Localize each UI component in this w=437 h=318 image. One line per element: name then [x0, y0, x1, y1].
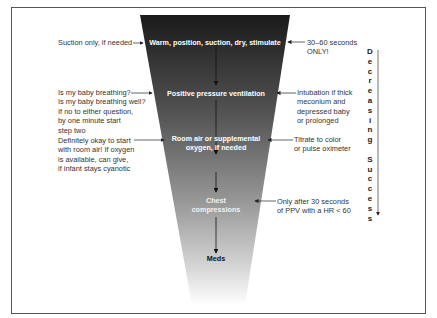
step-warm-position: Warm, position, suction, dry, stimulate [143, 38, 287, 47]
step-room-air: Room air or supplemental oxygen, if need… [160, 134, 272, 152]
note-is-baby-breathing: Is my baby breathing? Is my baby breathi… [58, 88, 146, 135]
note-titrate: Titrate to color or pulse oximeter [294, 135, 351, 154]
note-suction-only: Suction only, if needed [58, 38, 132, 47]
note-room-air-okay: Definitely okay to start with room air! … [58, 136, 134, 174]
decreasing-success-label: D e c r e a s i n g S u c c e s s [365, 47, 375, 223]
note-30-60-seconds: 30–60 seconds ONLY! [307, 38, 357, 57]
step-ppv: Positive pressure ventilation [152, 89, 280, 98]
step-meds: Meds [196, 254, 236, 263]
note-intubation: Intubation if thick meconium and depress… [297, 88, 352, 126]
note-only-after-30s: Only after 30 seconds of PPV with a HR <… [277, 197, 351, 216]
step-chest-compressions: Chest compressions [180, 196, 252, 214]
